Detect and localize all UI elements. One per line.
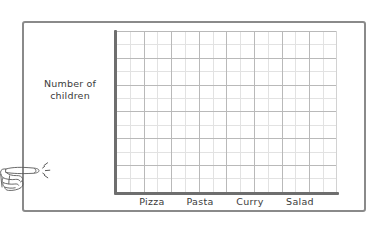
x-axis-label-pizza: Pizza <box>126 196 178 207</box>
pointing-hand-icon <box>0 156 58 192</box>
x-axis-line <box>114 192 339 195</box>
x-axis-labels: Pizza Pasta Curry Salad <box>116 196 341 210</box>
bar-chart <box>116 31 339 194</box>
y-axis-label: Number of children <box>30 78 110 102</box>
slide-canvas: Number of children Pizza Pasta Curry Sal… <box>0 0 387 234</box>
y-axis-line <box>114 30 117 194</box>
y-axis-label-line-2: children <box>30 90 110 102</box>
x-axis-label-salad: Salad <box>274 196 326 207</box>
y-axis-label-line-1: Number of <box>30 78 110 90</box>
chart-grid <box>116 31 337 192</box>
x-axis-label-pasta: Pasta <box>174 196 226 207</box>
x-axis-label-curry: Curry <box>224 196 276 207</box>
